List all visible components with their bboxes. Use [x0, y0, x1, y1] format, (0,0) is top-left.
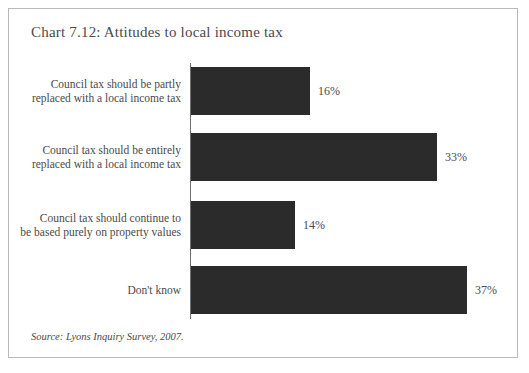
bar-3 [191, 266, 467, 314]
category-label-0: Council tax should be partly replaced wi… [9, 77, 181, 105]
bar-1 [191, 133, 437, 181]
plot-area: Council tax should be partly replaced wi… [9, 57, 517, 317]
category-label-2: Council tax should continue to be based … [9, 211, 181, 239]
value-label-3: 37% [475, 283, 497, 298]
source-note: Source: Lyons Inquiry Survey, 2007. [31, 331, 184, 342]
bar-row: Council tax should be entirely replaced … [9, 133, 517, 181]
category-label-3: Don't know [9, 283, 181, 297]
bar-row: Don't know 37% [9, 266, 517, 314]
bar-2 [191, 201, 295, 249]
chart-title: Chart 7.12: Attitudes to local income ta… [31, 24, 283, 41]
bar-row: Council tax should continue to be based … [9, 201, 517, 249]
value-label-2: 14% [303, 218, 325, 233]
value-label-1: 33% [445, 150, 467, 165]
bar-0 [191, 67, 310, 115]
bar-row: Council tax should be partly replaced wi… [9, 67, 517, 115]
chart-figure-frame: Chart 7.12: Attitudes to local income ta… [8, 8, 518, 358]
value-label-0: 16% [318, 84, 340, 99]
category-label-1: Council tax should be entirely replaced … [9, 143, 181, 171]
